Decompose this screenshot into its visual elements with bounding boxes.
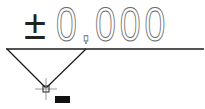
drawing-canvas[interactable]: ± 0.000 <box>0 0 205 109</box>
triangle-right-edge <box>46 49 86 88</box>
dynamic-input-tooltip <box>55 96 70 103</box>
plus-minus-sign: ± <box>24 3 46 47</box>
triangle-left-edge <box>7 49 46 88</box>
elevation-value-text: 0.000 <box>56 0 169 50</box>
